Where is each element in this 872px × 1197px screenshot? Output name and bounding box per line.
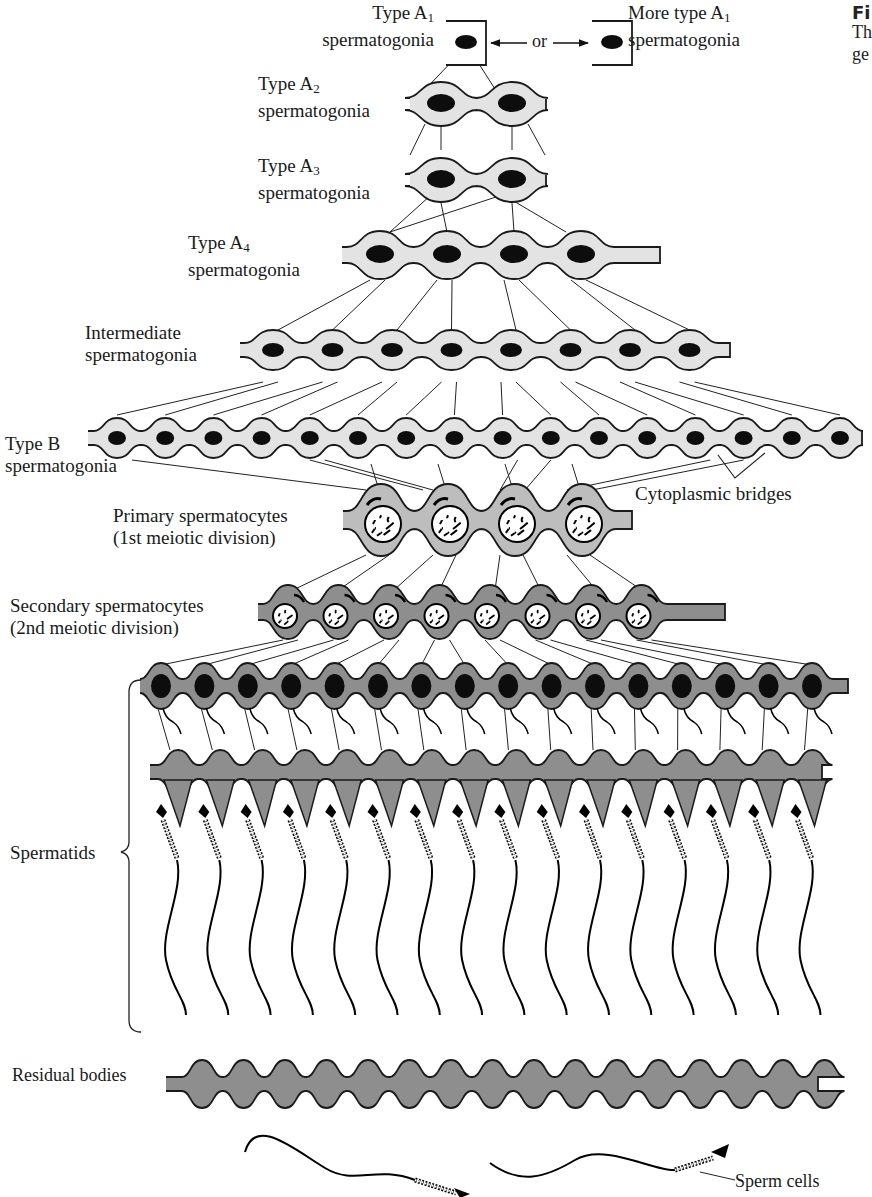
label-more-type-a1: More type A1 spermatogonia — [628, 2, 740, 51]
residual-bodies-row — [166, 1060, 845, 1108]
label-type-a4: Type A4 spermatogonia — [188, 232, 300, 281]
intermediate-row — [240, 330, 730, 370]
label-type-b: Type B spermatogonia — [5, 433, 117, 477]
label-type-a3: Type A3 spermatogonia — [258, 155, 370, 204]
lineage-lines — [117, 53, 840, 750]
label-residual-bodies: Residual bodies — [12, 1064, 127, 1086]
figure-heading: Fi — [852, 2, 870, 23]
label-intermediate: Intermediate spermatogonia — [85, 322, 197, 366]
cell-rows — [88, 21, 863, 1108]
figure-caption-line-2: ge — [852, 44, 869, 65]
type-a2-row — [405, 82, 548, 126]
label-secondary-spermatocytes: Secondary spermatocytes (2nd meiotic div… — [10, 595, 204, 639]
label-type-a1: Type A1 spermatogonia — [258, 2, 434, 51]
figure-caption-line-1: Th — [852, 22, 872, 43]
label-type-a2: Type A2 spermatogonia — [258, 73, 370, 122]
label-sperm-cells: Sperm cells — [735, 1170, 819, 1192]
label-primary-spermatocytes: Primary spermatocytes (1st meiotic divis… — [113, 505, 288, 549]
label-spermatids: Spermatids — [10, 842, 96, 864]
label-cytoplasmic-bridges: Cytoplasmic bridges — [635, 483, 792, 505]
type-a3-row — [405, 158, 548, 202]
or-label: or — [532, 31, 547, 52]
